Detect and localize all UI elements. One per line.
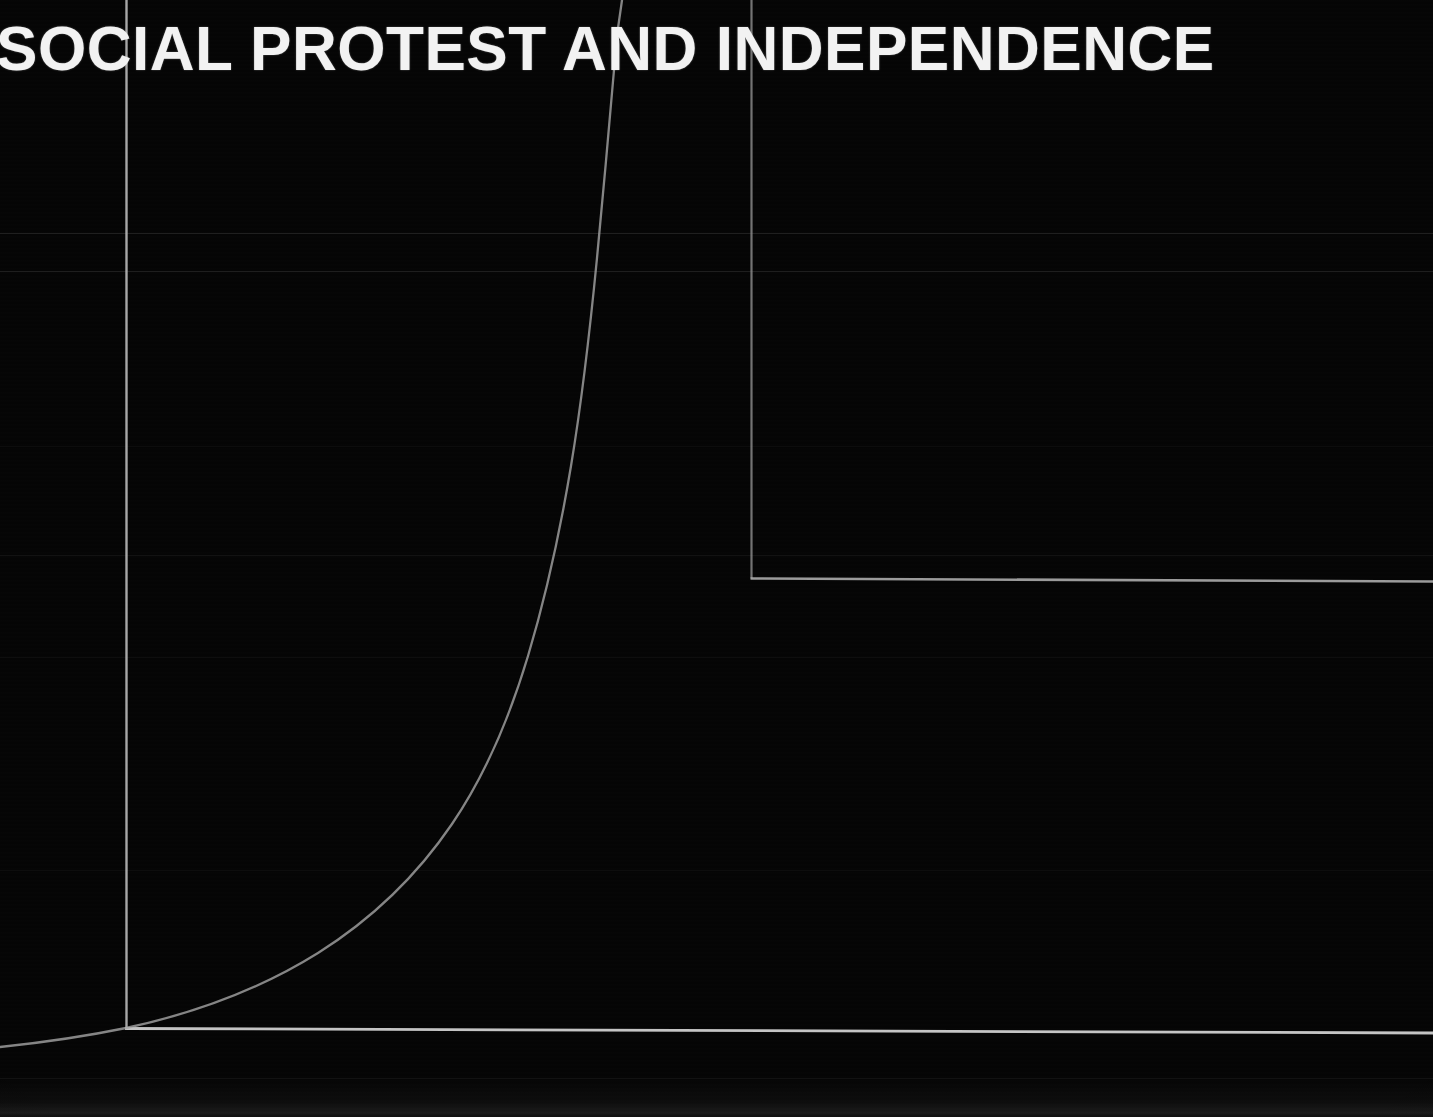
x-axis-line (125, 1029, 1433, 1034)
chart-plot-area (0, 0, 1433, 1117)
growth-curve (0, 0, 622, 1047)
page-title: SOCIAL PROTEST AND INDEPENDENCE (0, 17, 1215, 80)
slide-frame: SOCIAL PROTEST AND INDEPENDENCE (0, 0, 1433, 1117)
title-band: SOCIAL PROTEST AND INDEPENDENCE (0, 0, 1433, 92)
callout-rectangle-bottom-edge (751, 579, 1433, 582)
